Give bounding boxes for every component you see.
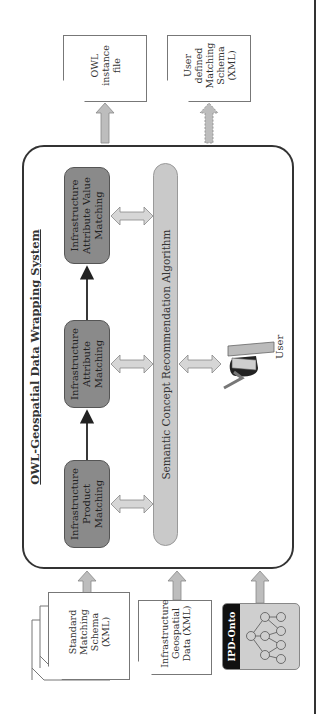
- output-arrow-owl-instance: [96, 103, 114, 143]
- input-arrow-ipd-onto: [251, 571, 269, 603]
- input-arrow-standard-schema: [78, 571, 96, 593]
- system-title: OWL-Geospatial Data Wrapping System: [28, 0, 42, 714]
- ontology-graph-icon: [223, 603, 300, 669]
- standard-schema-doc: Standard Matching Schema (XML): [48, 592, 130, 680]
- product-matching-box: Infrastructure Product Matching: [64, 460, 110, 548]
- user-schema-doc: User defined Matching Schema (XML): [167, 35, 251, 102]
- geospatial-data-doc: Infrastructure Geospatial Data (XML): [138, 600, 212, 675]
- attribute-matching-box: Infrastructure Attribute Matching: [64, 320, 110, 408]
- owl-instance-doc: OWL instance file: [63, 35, 147, 102]
- attribute-value-matching-box: Infrastructure Attribute Value Matching: [64, 167, 110, 264]
- ipd-onto-box: IPD-Onto: [222, 603, 300, 670]
- output-arrow-user-schema: [200, 103, 218, 143]
- input-arrow-geospatial-data: [168, 571, 186, 600]
- recommendation-algorithm-bar: Semantic Concept Recommendation Algorith…: [153, 163, 178, 546]
- diagram-stage: OWL-Geospatial Data Wrapping System Infr…: [0, 0, 325, 714]
- user-label: User: [274, 335, 285, 359]
